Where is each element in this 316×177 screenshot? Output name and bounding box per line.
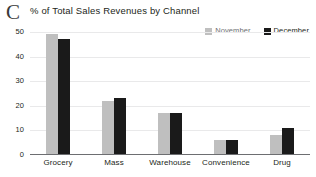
bar[interactable] — [58, 39, 70, 155]
chart-title: % of Total Sales Revenues by Channel — [30, 4, 199, 17]
x-axis-line — [30, 154, 310, 155]
y-axis-tick-label: 40 — [15, 53, 24, 61]
bar-group — [198, 32, 254, 155]
bar[interactable] — [282, 128, 294, 155]
x-axis-label: Convenience — [198, 157, 254, 168]
x-axis-labels: GroceryMassWarehouseConvenienceDrug — [30, 157, 310, 168]
bar-group — [254, 32, 310, 155]
y-axis-tick-label: 50 — [15, 28, 24, 36]
chart-figure: C % of Total Sales Revenues by Channel N… — [0, 0, 316, 177]
bar-group — [142, 32, 198, 155]
bar[interactable] — [158, 113, 170, 155]
y-axis-ticks: 50403020100 — [0, 32, 28, 155]
x-axis-label: Mass — [86, 157, 142, 168]
panel-label: C — [6, 0, 20, 24]
bar-groups — [30, 32, 310, 155]
bar[interactable] — [46, 34, 58, 155]
bar[interactable] — [226, 140, 238, 155]
bar[interactable] — [214, 140, 226, 155]
bar[interactable] — [170, 113, 182, 155]
y-axis-tick-label: 10 — [15, 126, 24, 134]
x-axis-label: Warehouse — [142, 157, 198, 168]
x-axis-label: Grocery — [30, 157, 86, 168]
x-axis-label: Drug — [254, 157, 310, 168]
bar-group — [86, 32, 142, 155]
y-axis-tick-label: 20 — [15, 102, 24, 110]
bar[interactable] — [114, 98, 126, 155]
y-axis-tick-label: 30 — [15, 77, 24, 85]
bar[interactable] — [102, 101, 114, 155]
bar[interactable] — [270, 135, 282, 155]
bar-group — [30, 32, 86, 155]
plot-area — [30, 32, 310, 155]
y-axis-tick-label: 0 — [20, 151, 24, 159]
